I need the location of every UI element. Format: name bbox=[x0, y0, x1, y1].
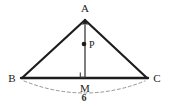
geometry-diagram-svg: A B C M P 6 bbox=[0, 0, 169, 106]
label-point-p: P bbox=[89, 39, 95, 50]
label-vertex-b: B bbox=[8, 72, 15, 84]
geometry-figure-canvas: A B C M P 6 bbox=[0, 0, 169, 106]
label-vertex-c: C bbox=[153, 72, 160, 84]
label-base-measure: 6 bbox=[82, 92, 87, 103]
label-vertex-a: A bbox=[81, 2, 89, 14]
point-dot-p-icon bbox=[82, 42, 87, 47]
